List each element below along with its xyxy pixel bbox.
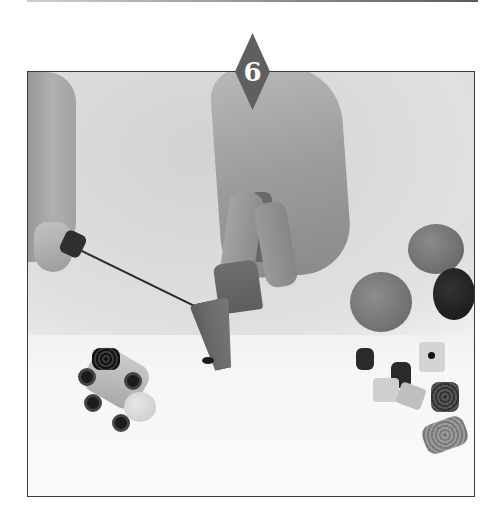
liquorice-candy — [395, 381, 427, 411]
clay-car-wheel — [84, 394, 102, 412]
clay-ball-large — [350, 272, 412, 332]
clay-car-nose — [124, 392, 156, 422]
clay-cone-hole — [202, 357, 214, 364]
step-number: 6 — [235, 56, 270, 88]
step-photo — [27, 71, 475, 497]
top-rule-divider — [27, 0, 478, 2]
liquorice-candy-center — [428, 352, 435, 359]
gummy-bear — [419, 413, 471, 456]
sugar-candy — [431, 382, 459, 412]
clay-car-wheel — [78, 368, 96, 386]
clay-ball-medium — [408, 224, 464, 274]
clay-car-wheel — [124, 372, 142, 390]
clay-car-driver-hair — [92, 348, 120, 370]
clay-ball-dark — [433, 268, 475, 320]
liquorice-candy — [356, 348, 374, 370]
